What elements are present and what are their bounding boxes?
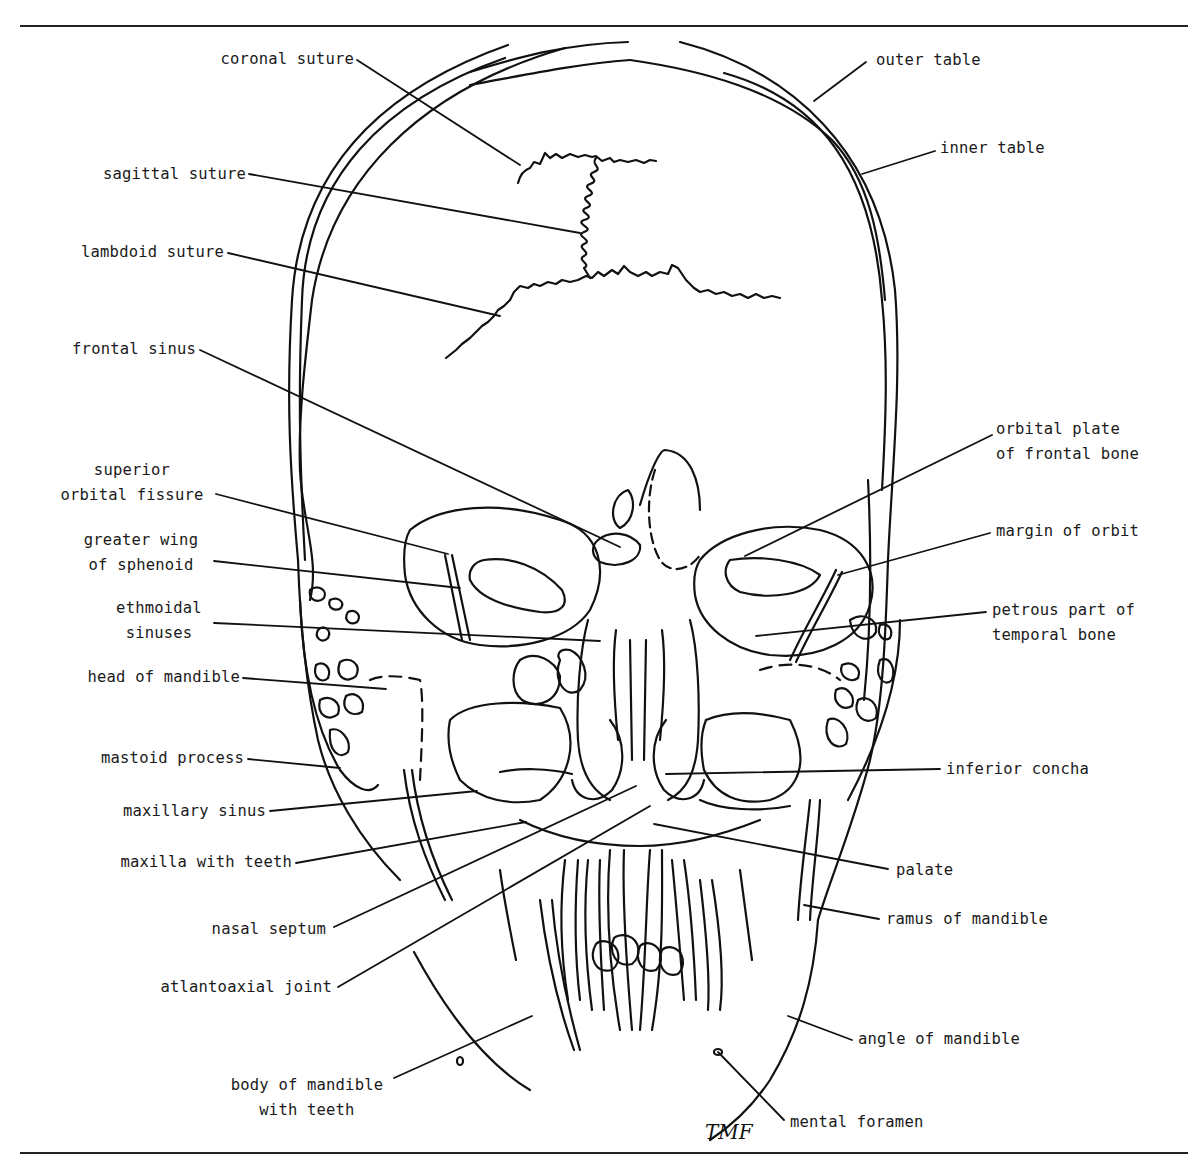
label-ramus-of-mandible: ramus of mandible — [886, 907, 1076, 932]
label-atlantoaxial-joint: atlantoaxial joint — [140, 975, 332, 1000]
head-of-mandible-shape — [370, 676, 422, 780]
label-palate: palate — [896, 858, 976, 883]
label-sagittal-suture: sagittal suture — [88, 162, 246, 187]
left-mental-foramen — [457, 1057, 463, 1065]
label-head-of-mandible: head of mandible — [70, 665, 240, 690]
coronal-suture-line — [518, 153, 656, 183]
leader-line-maxilla-with-teeth — [296, 822, 526, 863]
label-orbital-plate-of-frontal-bone: orbital plate of frontal bone — [996, 417, 1164, 467]
leader-line-palate — [654, 824, 888, 869]
label-maxilla-with-teeth: maxilla with teeth — [90, 850, 292, 875]
leader-line-head-of-mandible — [243, 678, 386, 689]
label-angle-of-mandible: angle of mandible — [858, 1027, 1048, 1052]
leader-line-maxillary-sinus — [270, 791, 477, 811]
right-maxillary-sinus — [701, 713, 800, 801]
label-mastoid-process: mastoid process — [80, 746, 244, 771]
label-outer-table: outer table — [876, 48, 996, 73]
left-mastoid-cells — [310, 588, 363, 755]
artist-signature: TMF — [705, 1120, 753, 1144]
leader-line-sagittal-suture — [249, 174, 580, 233]
leader-line-inferior-concha — [666, 769, 940, 774]
leader-line-mental-foramen — [718, 1052, 784, 1120]
label-nasal-septum: nasal septum — [196, 917, 326, 942]
leader-line-inner-table — [862, 151, 935, 174]
outer-table-outline — [289, 45, 508, 560]
leader-line-greater-wing-of-sphenoid — [214, 561, 460, 588]
label-margin-of-orbit: margin of orbit — [996, 519, 1152, 544]
right-ramus — [798, 800, 820, 920]
label-frontal-sinus: frontal sinus — [60, 337, 196, 362]
sagittal-suture-line — [581, 158, 598, 278]
leader-line-ethmoidal-sinuses — [214, 623, 600, 641]
skull-diagram: coronal suturesagittal suturelambdoid su… — [0, 0, 1197, 1174]
leader-line-petrous-part-of-temporal-bone — [756, 612, 986, 636]
label-ethmoidal-sinuses: ethmoidal sinuses — [110, 596, 208, 646]
left-ramus — [404, 770, 452, 900]
label-body-of-mandible-with-teeth: body of mandible with teeth — [222, 1073, 392, 1123]
leader-line-lambdoid-suture — [228, 253, 500, 316]
leader-line-body-of-mandible-with-teeth — [394, 1016, 532, 1078]
label-maxillary-sinus: maxillary sinus — [98, 799, 266, 824]
label-coronal-suture: coronal suture — [208, 47, 354, 72]
label-greater-wing-of-sphenoid: greater wing of sphenoid — [70, 528, 212, 578]
mandible-outline — [414, 920, 818, 1140]
leader-line-angle-of-mandible — [788, 1016, 852, 1040]
leader-line-outer-table — [814, 62, 866, 101]
label-inner-table: inner table — [940, 136, 1070, 161]
leader-line-superior-orbital-fissure — [216, 494, 448, 554]
left-maxillary-sinus — [448, 703, 570, 802]
right-orbit — [694, 527, 872, 656]
leader-line-mastoid-process — [248, 759, 340, 768]
leader-line-ramus-of-mandible — [804, 905, 879, 919]
teeth — [500, 850, 752, 1050]
label-inferior-concha: inferior concha — [946, 757, 1106, 782]
leader-line-frontal-sinus — [200, 350, 620, 547]
label-lambdoid-suture: lambdoid suture — [66, 240, 224, 265]
leader-line-atlantoaxial-joint — [338, 806, 650, 987]
label-superior-orbital-fissure: superior orbital fissure — [50, 458, 214, 508]
lambdoid-suture-line — [446, 265, 780, 358]
leader-line-orbital-plate-of-frontal-bone — [745, 435, 992, 556]
label-petrous-part-of-temporal-bone: petrous part of temporal bone — [992, 598, 1158, 648]
left-orbit — [404, 508, 600, 647]
label-mental-foramen: mental foramen — [790, 1110, 966, 1135]
right-mastoid-cells — [827, 616, 894, 746]
